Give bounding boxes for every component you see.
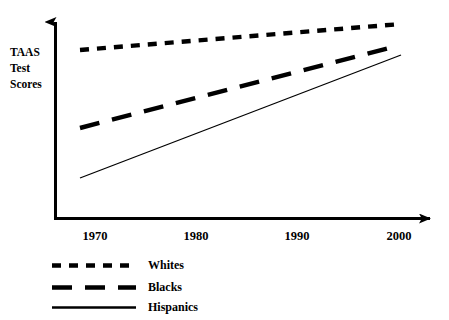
legend-label-hispanics: Hispanics xyxy=(148,300,198,315)
x-tick-label-1980: 1980 xyxy=(166,229,226,244)
chart-figure: TAAS Test Scores 1970 1980 1990 2000 xyxy=(0,0,449,320)
x-tick-label-2000: 2000 xyxy=(369,229,429,244)
x-tick-label-1970: 1970 xyxy=(65,229,125,244)
legend-label-whites: Whites xyxy=(148,258,184,273)
x-tick-label-1990: 1990 xyxy=(267,229,327,244)
series-line-whites xyxy=(80,24,401,50)
plot-area xyxy=(0,0,449,320)
legend-label-blacks: Blacks xyxy=(148,280,182,295)
series-line-blacks xyxy=(80,47,393,128)
